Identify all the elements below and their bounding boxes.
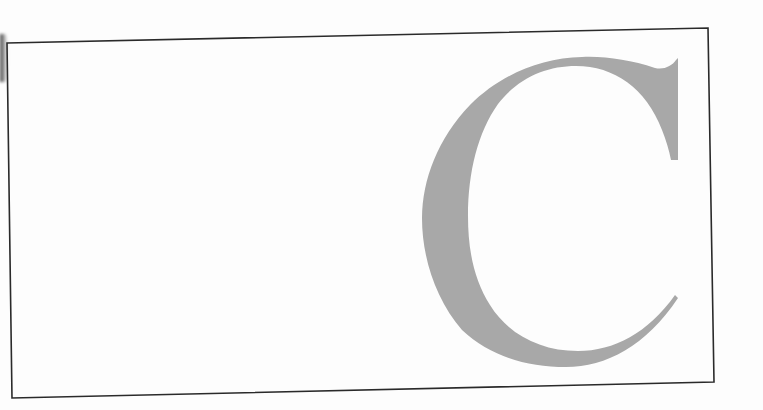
- figure-canvas: [0, 0, 763, 410]
- frame-border: [7, 28, 714, 398]
- letter-c-glyph: [422, 57, 678, 367]
